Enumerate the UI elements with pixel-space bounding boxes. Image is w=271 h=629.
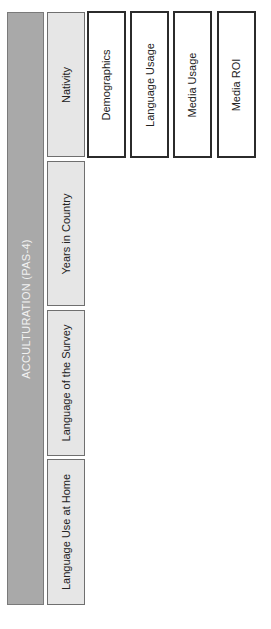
sub-item-label: Nativity	[60, 66, 72, 102]
side-item-label: Language Usage	[144, 43, 156, 127]
sub-item-label: Years in Country	[60, 193, 72, 274]
sub-item-label: Language of the Survey	[60, 325, 72, 442]
sub-item-label: Language Use at Home	[60, 474, 72, 590]
sub-item-language-use-at-home: Language Use at Home	[47, 459, 85, 605]
side-item-media-usage: Media Usage	[173, 11, 212, 158]
sub-item-nativity: Nativity	[47, 12, 85, 157]
side-item-label: Media Usage	[187, 52, 199, 117]
side-item-label: Demographics	[101, 49, 113, 120]
sub-item-language-of-survey: Language of the Survey	[47, 310, 85, 456]
side-item-language-usage: Language Usage	[130, 11, 169, 158]
sub-item-years-in-country: Years in Country	[47, 161, 85, 306]
side-item-demographics: Demographics	[87, 11, 126, 158]
acculturation-header: ACCULTURATION (PAS-4)	[7, 12, 44, 605]
acculturation-header-label: ACCULTURATION (PAS-4)	[20, 239, 32, 379]
side-item-media-roi: Media ROI	[217, 11, 256, 158]
side-item-label: Media ROI	[231, 58, 243, 111]
